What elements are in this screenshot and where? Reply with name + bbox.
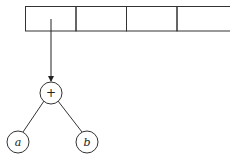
array-cell-2 (127, 7, 178, 32)
array (26, 7, 231, 32)
tree-node-root: + (40, 82, 62, 104)
edge-root-left (23, 101, 44, 132)
left-label: a (15, 136, 22, 149)
array-cell-3 (177, 7, 230, 32)
array-cell-1 (76, 7, 127, 32)
root-label: + (46, 86, 56, 100)
tree-node-left: a (7, 131, 29, 153)
tree-node-right: b (76, 131, 98, 153)
right-label: b (83, 136, 90, 149)
diagram-canvas: + a b (0, 0, 230, 159)
edge-root-right (58, 101, 82, 132)
